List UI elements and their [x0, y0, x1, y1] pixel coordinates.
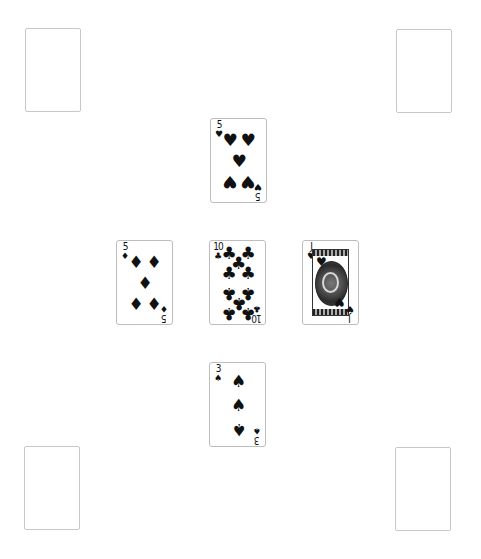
diamond-icon: ♦ [146, 254, 161, 271]
club-icon: ♣ [240, 265, 255, 282]
card-north-5-hearts[interactable]: 5 ♥ ♥ ♥ ♥ ♥ ♥ 5 ♥ [210, 118, 267, 203]
heart-icon: ♥ [222, 173, 237, 190]
heart-icon: ♥ [252, 182, 264, 191]
empty-card-slot-bottom-right[interactable] [395, 447, 451, 531]
heart-icon: ♥ [316, 256, 327, 268]
club-icon: ♣ [251, 304, 263, 313]
empty-card-slot-top-left[interactable] [25, 28, 81, 112]
empty-card-slot-top-right[interactable] [396, 29, 452, 113]
card-index-bottom: 10 ♣ [251, 304, 263, 323]
spade-icon: ♠ [251, 426, 263, 435]
card-rank: 10 [251, 313, 263, 323]
card-index-bottom: J ♥ [344, 304, 356, 323]
card-index-bottom: 3 ♠ [251, 426, 263, 445]
card-center-10-clubs[interactable]: 10 ♣ ♣ ♣ ♣ ♣ ♣ ♣ ♣ ♣ ♣ ♣ 10 ♣ [209, 240, 266, 325]
face-emblem-ring [322, 272, 339, 293]
card-east-jack-hearts[interactable]: J ♥ ♥ ♥ J ♥ [302, 240, 359, 325]
card-index-top: 3 ♠ [212, 364, 224, 383]
heart-icon: ♥ [231, 153, 246, 170]
club-icon: ♣ [221, 265, 236, 282]
card-index-bottom: 5 ♦ [158, 304, 170, 323]
diamond-icon: ♦ [158, 304, 170, 313]
spade-icon: ♠ [231, 373, 246, 390]
card-rank: 5 [158, 313, 170, 323]
card-rank: J [344, 313, 356, 323]
spade-icon: ♠ [231, 397, 246, 414]
diamond-icon: ♦ [137, 275, 152, 292]
heart-icon: ♥ [240, 132, 255, 149]
empty-card-slot-bottom-left[interactable] [24, 446, 80, 530]
diamond-icon: ♦ [128, 254, 143, 271]
heart-icon: ♥ [222, 132, 237, 149]
card-rank: 5 [252, 191, 264, 201]
heart-icon: ♥ [344, 304, 356, 313]
spade-icon: ♠ [231, 421, 246, 438]
club-icon: ♣ [221, 305, 236, 322]
face-border-bottom [313, 309, 348, 315]
card-south-3-spades[interactable]: 3 ♠ ♠ ♠ ♠ 3 ♠ [209, 362, 266, 447]
card-index-bottom: 5 ♥ [252, 182, 264, 201]
diamond-icon: ♦ [128, 296, 143, 313]
card-rank: 3 [251, 435, 263, 445]
spade-icon: ♠ [212, 374, 224, 383]
card-west-5-diamonds[interactable]: 5 ♦ ♦ ♦ ♦ ♦ ♦ 5 ♦ [116, 240, 173, 325]
